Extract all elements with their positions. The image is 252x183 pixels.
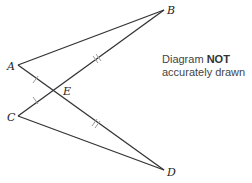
label-A: A bbox=[6, 60, 15, 73]
label-B: B bbox=[166, 4, 175, 17]
diagram-canvas: A B C D E bbox=[0, 0, 252, 183]
accuracy-note: Diagram NOT accurately drawn bbox=[162, 53, 245, 79]
tick-EB-1 bbox=[93, 56, 98, 63]
tick-EB-2 bbox=[96, 54, 101, 61]
segment-CB bbox=[18, 10, 164, 116]
label-D: D bbox=[166, 166, 176, 179]
segment-AB bbox=[18, 10, 164, 65]
label-C: C bbox=[7, 111, 16, 124]
note-line2: accurately drawn bbox=[162, 66, 245, 78]
note-prefix: Diagram bbox=[162, 53, 207, 65]
note-emphasis: NOT bbox=[207, 53, 230, 65]
segment-CD bbox=[18, 116, 164, 170]
label-E: E bbox=[62, 85, 71, 98]
segment-AD bbox=[18, 65, 164, 170]
